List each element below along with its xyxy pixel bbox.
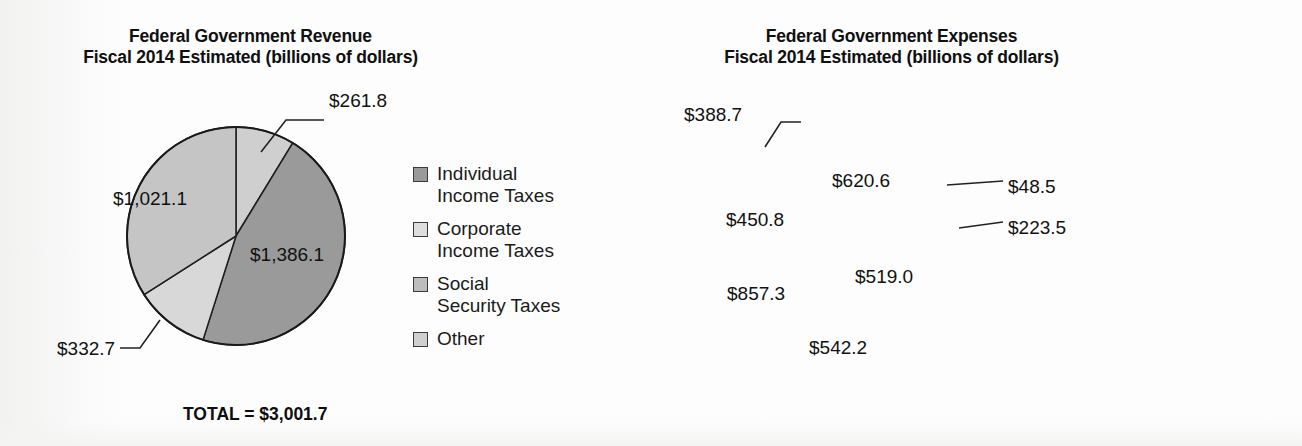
slice-value-national-defense: $620.6	[832, 170, 890, 192]
leader-line-net-interest-on-debt	[959, 222, 1003, 228]
legend-item-corporate-income-taxes[interactable]: Corporate Income Taxes	[413, 218, 560, 262]
slice-value-medicare: $519.0	[855, 266, 913, 288]
total-revenue: TOTAL = $3,001.7	[183, 404, 327, 425]
chart-title-revenue: Federal Government Revenue Fiscal 2014 E…	[0, 26, 576, 68]
slice-value-net-interest-on-debt: $223.5	[1008, 217, 1066, 239]
leader-line-other-expense	[765, 122, 801, 147]
legend-swatch-icon-individual-income-taxes	[413, 167, 428, 182]
slice-value-international-affairs: $48.5	[1008, 176, 1056, 198]
slice-value-other-revenue: $261.8	[329, 90, 387, 112]
pie-chart-revenue	[125, 125, 347, 347]
figure-page: Federal Government Revenue Fiscal 2014 E…	[0, 0, 1302, 446]
slice-value-other-expense: $388.7	[684, 104, 742, 126]
slice-value-social-security-taxes: $1,021.1	[113, 188, 187, 210]
legend-item-other-revenue[interactable]: Other	[413, 328, 560, 350]
legend-label-corporate-income-taxes: Corporate Income Taxes	[437, 218, 554, 262]
slice-value-social-security-expense: $857.3	[727, 283, 785, 305]
legend-item-individual-income-taxes[interactable]: Individual Income Taxes	[413, 163, 560, 207]
chart-title-expenses: Federal Government Expenses Fiscal 2014 …	[566, 26, 1217, 68]
slice-value-income-security: $542.2	[809, 337, 867, 359]
slice-value-individual-income-taxes: $1,386.1	[250, 244, 324, 266]
chart-title-revenue-line2: Fiscal 2014 Estimated (billions of dolla…	[0, 47, 576, 68]
legend-item-social-security-taxes[interactable]: Social Security Taxes	[413, 273, 560, 317]
legend-label-other-revenue: Other	[437, 328, 485, 350]
chart-panel-revenue: Federal Government Revenue Fiscal 2014 E…	[0, 0, 651, 446]
pie-revenue-svg	[125, 125, 347, 347]
leader-line-international-affairs	[947, 181, 1003, 185]
chart-panel-expenses: Federal Government Expenses Fiscal 2014 …	[651, 0, 1302, 446]
legend-label-individual-income-taxes: Individual Income Taxes	[437, 163, 554, 207]
slice-value-health: $450.8	[726, 209, 784, 231]
slice-value-corporate-income-taxes: $332.7	[57, 338, 115, 360]
legend-swatch-icon-corporate-income-taxes	[413, 222, 428, 237]
chart-title-expenses-line2: Fiscal 2014 Estimated (billions of dolla…	[566, 47, 1217, 68]
legend-swatch-icon-social-security-taxes	[413, 277, 428, 292]
legend-swatch-icon-other-revenue	[413, 332, 428, 347]
chart-title-revenue-line1: Federal Government Revenue	[0, 26, 576, 47]
chart-title-expenses-line1: Federal Government Expenses	[566, 26, 1217, 47]
legend-label-social-security-taxes: Social Security Taxes	[437, 273, 560, 317]
legend-revenue: Individual Income Taxes Corporate Income…	[413, 163, 560, 361]
